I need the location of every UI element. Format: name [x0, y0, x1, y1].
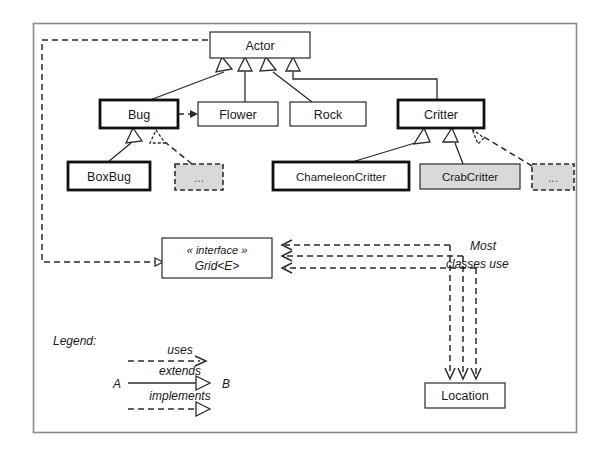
- interface-stereotype-label: « interface »: [187, 244, 248, 256]
- class-label-crabcritter: CrabCritter: [442, 171, 498, 183]
- uml-class-diagram: Actor Bug Flower Rock Critter BoxBug: [0, 0, 601, 453]
- annotation-most-classes-use: Most classes use: [446, 239, 509, 271]
- triangle-hollow: [126, 128, 142, 143]
- legend-extends-label: extends: [159, 364, 201, 378]
- class-box-bug-more[interactable]: ...: [175, 164, 223, 190]
- edge-bugmore-extends-bug: [150, 130, 192, 164]
- edge-classes-use-location-2: [458, 256, 468, 379]
- legend-extends-triangle: [196, 376, 210, 390]
- class-box-chameleoncritter[interactable]: ChameleonCritter: [273, 162, 409, 190]
- annotation-line-2: classes use: [446, 257, 509, 271]
- legend-source-label: A: [112, 377, 121, 391]
- edge-chameleoncritter-extends-critter: [352, 128, 430, 162]
- edge-critter-extends-actor: [286, 57, 437, 100]
- triangle-hollow-dashed: [472, 129, 484, 144]
- arrowhead-open: [190, 110, 198, 118]
- interface-name-label: Grid<E>: [195, 259, 240, 273]
- edge-classes-use-location-3: [471, 268, 481, 379]
- class-label-bug-more: ...: [194, 171, 204, 185]
- class-box-actor[interactable]: Actor: [210, 32, 310, 58]
- legend-implements-label: implements: [149, 389, 210, 403]
- legend-title: Legend:: [53, 334, 96, 348]
- class-label-actor: Actor: [245, 39, 274, 53]
- triangle-hollow: [414, 128, 430, 144]
- edge-crabcritter-extends-critter: [443, 128, 463, 164]
- legend: Legend: uses extends A B implements: [53, 334, 230, 416]
- interface-box-grid[interactable]: « interface » Grid<E>: [162, 238, 272, 278]
- diagram-canvas: Actor Bug Flower Rock Critter BoxBug: [0, 0, 601, 453]
- class-label-boxbug: BoxBug: [87, 170, 131, 184]
- edge-actor-uses-grid: [42, 40, 208, 266]
- legend-uses-label: uses: [167, 343, 192, 357]
- edge-boxbug-extends-bug: [108, 128, 142, 162]
- edge-classes-use-grid-2: [282, 251, 463, 261]
- class-label-bug: Bug: [128, 108, 150, 122]
- class-box-bug[interactable]: Bug: [100, 100, 178, 128]
- class-label-flower: Flower: [219, 108, 257, 122]
- triangle-hollow: [260, 57, 276, 71]
- class-box-crabcritter[interactable]: CrabCritter: [420, 164, 520, 189]
- class-label-location: Location: [441, 389, 488, 403]
- legend-implements-triangle: [196, 402, 210, 416]
- class-label-critter: Critter: [424, 108, 458, 122]
- class-label-rock: Rock: [314, 108, 343, 122]
- class-box-rock[interactable]: Rock: [290, 102, 366, 126]
- class-label-critter-more: ...: [548, 171, 558, 185]
- triangle-hollow: [216, 57, 232, 72]
- class-box-flower[interactable]: Flower: [198, 102, 278, 126]
- edge-bug-uses-flower: [178, 110, 198, 118]
- triangle-hollow-dashed: [150, 130, 165, 143]
- diagram-frame: [34, 24, 577, 433]
- triangle-hollow: [238, 57, 252, 71]
- class-box-critter[interactable]: Critter: [398, 100, 484, 128]
- legend-target-label: B: [222, 377, 230, 391]
- annotation-line-1: Most: [470, 239, 497, 253]
- triangle-hollow: [443, 128, 458, 142]
- edge-crittermore-extends-critter: [472, 129, 532, 166]
- class-box-boxbug[interactable]: BoxBug: [68, 162, 150, 190]
- triangle-hollow: [286, 57, 300, 71]
- class-box-location[interactable]: Location: [425, 383, 505, 408]
- edge-bug-extends-actor: [150, 57, 232, 100]
- edge-classes-use-grid-1: [282, 240, 450, 250]
- class-box-critter-more[interactable]: ...: [532, 164, 574, 190]
- class-label-chameleoncritter: ChameleonCritter: [296, 171, 386, 183]
- edge-flower-extends-actor: [238, 57, 252, 102]
